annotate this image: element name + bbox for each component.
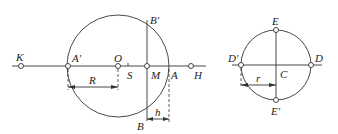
label-h: H	[193, 69, 203, 81]
point-e-prime-marker	[274, 98, 279, 103]
left-figure: K A' O S M A H B' B R h	[12, 14, 206, 132]
diagram-canvas: K A' O S M A H B' B R h E E' D' D C r	[0, 0, 338, 134]
label-h-dim: h	[155, 106, 161, 118]
label-r-upper: R	[88, 74, 96, 86]
point-a-prime-marker	[66, 64, 71, 69]
label-a-prime: A'	[71, 52, 82, 64]
label-s: S	[127, 69, 133, 81]
arrow-right-icon	[163, 117, 169, 121]
label-o: O	[114, 52, 122, 64]
point-h-marker	[189, 64, 194, 69]
point-d-marker	[309, 63, 314, 68]
label-e: E	[271, 15, 279, 27]
arrow-right-icon	[269, 83, 276, 87]
point-d-prime-marker	[239, 63, 244, 68]
label-d-prime: D'	[227, 52, 239, 64]
point-o-marker	[116, 64, 121, 69]
label-d: D	[314, 52, 323, 64]
arrow-right-icon	[111, 85, 118, 89]
label-b: B	[137, 120, 144, 132]
geometry-diagram: K A' O S M A H B' B R h E E' D' D C r	[0, 0, 338, 134]
point-k-marker	[19, 64, 24, 69]
label-b-prime: B'	[150, 14, 160, 26]
arrow-left-icon	[147, 117, 153, 121]
label-c: C	[280, 68, 288, 80]
label-m: M	[150, 69, 161, 81]
point-m-marker	[145, 64, 150, 69]
label-a: A	[170, 69, 178, 81]
label-r-lower: r	[256, 72, 261, 84]
point-e-marker	[274, 28, 279, 33]
right-figure: E E' D' D C r	[227, 15, 323, 117]
label-e-prime: E'	[270, 105, 281, 117]
label-k: K	[15, 51, 24, 63]
arrow-left-icon	[241, 83, 248, 87]
arrow-left-icon	[68, 85, 75, 89]
